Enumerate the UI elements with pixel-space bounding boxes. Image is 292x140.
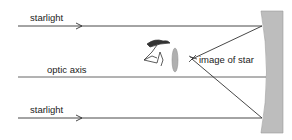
concave-mirror <box>261 11 283 133</box>
label-optic-axis: optic axis <box>47 64 87 75</box>
label-starlight-top: starlight <box>30 12 64 23</box>
telescope-diagram: starlight optic axis starlight image of … <box>0 0 292 140</box>
eyepiece-lens <box>172 48 178 72</box>
observer-icon <box>144 40 170 66</box>
label-starlight-bottom: starlight <box>30 104 64 115</box>
reflected-ray-bottom <box>192 59 262 118</box>
star-image-icon <box>189 55 197 62</box>
label-image-of-star: image of star <box>199 54 254 65</box>
